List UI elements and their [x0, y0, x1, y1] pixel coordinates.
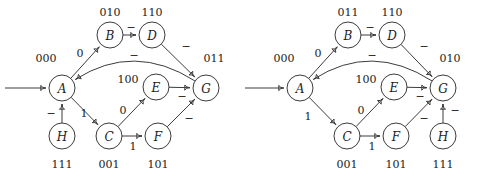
node-E-code: 100	[356, 73, 377, 86]
node-C[interactable]: C001	[96, 123, 122, 171]
node-C-code: 001	[337, 158, 358, 171]
figure-canvas: 0−−−101−−−A000B010D110E100G011C001F101H1…	[0, 0, 477, 179]
node-H-label: H	[56, 130, 68, 144]
node-G[interactable]: G010	[430, 52, 461, 101]
node-B-code: 010	[100, 6, 121, 19]
node-F[interactable]: F101	[145, 123, 171, 171]
node-E-code: 100	[118, 73, 139, 86]
left-state-diagram: 0−−−101−−−A000B010D110E100G011C001F101H1…	[5, 6, 225, 171]
edge-G-to-A-label: −	[367, 49, 376, 62]
node-H[interactable]: H111	[430, 123, 456, 171]
edge-G-to-A-label: −	[129, 49, 138, 62]
edge-G-to-A-head	[75, 74, 81, 79]
right-state-diagram: 0−−−101−−−A000B011D110E100G010C001F101H1…	[245, 6, 461, 171]
node-B-label: B	[343, 29, 353, 43]
node-G-code: 011	[204, 52, 225, 65]
node-A-label: A	[57, 82, 67, 96]
node-H[interactable]: H111	[49, 123, 75, 171]
edge-G-to-A-head	[313, 74, 319, 79]
node-A-code: 000	[36, 52, 57, 65]
node-D-label: D	[146, 29, 157, 43]
node-D-label: D	[386, 29, 397, 43]
node-C[interactable]: C001	[334, 123, 360, 171]
node-B[interactable]: B011	[335, 6, 361, 48]
edge-H-to-G-label: −	[450, 104, 459, 117]
edge-C-to-E-label: 0	[358, 104, 365, 117]
edge-A-to-C	[309, 97, 336, 124]
node-H-label: H	[437, 130, 449, 144]
node-B[interactable]: B010	[97, 6, 123, 48]
node-G-label: G	[438, 82, 448, 96]
node-G-label: G	[201, 82, 211, 96]
state-diagram-figure: 0−−−101−−−A000B010D110E100G011C001F101H1…	[0, 0, 477, 179]
edge-E-to-G-label: −	[177, 90, 186, 103]
edge-F-to-G-label: −	[184, 112, 193, 125]
node-D-code: 110	[382, 6, 403, 19]
node-A[interactable]: A000	[274, 52, 314, 101]
edge-D-to-G-label: −	[419, 40, 428, 53]
edge-B-to-D-label: −	[126, 21, 135, 34]
node-F-code: 101	[386, 158, 407, 171]
edge-A-to-B-label: 0	[315, 47, 322, 60]
node-E-label: E	[389, 81, 399, 95]
node-G-code: 010	[440, 52, 461, 65]
node-F-label: F	[391, 130, 401, 144]
node-C-label: C	[342, 130, 351, 144]
edge-A-to-C-label: 1	[305, 110, 312, 123]
node-F-label: F	[153, 130, 163, 144]
node-G[interactable]: G011	[193, 52, 225, 101]
node-D[interactable]: D110	[139, 6, 165, 48]
edge-C-to-F-label: 1	[369, 140, 376, 153]
edge-A-to-B-label: 0	[77, 47, 84, 60]
node-E[interactable]: E100	[118, 73, 170, 100]
edge-E-to-G-label: −	[415, 90, 424, 103]
edge-A-to-C-label: 1	[81, 107, 88, 120]
node-C-label: C	[104, 130, 113, 144]
node-H-code: 111	[52, 158, 73, 171]
edge-C-to-E-label: 0	[120, 104, 127, 117]
edge-D-to-G-label: −	[181, 40, 190, 53]
node-D-code: 110	[142, 6, 163, 19]
node-C-code: 001	[99, 158, 120, 171]
edge-H-to-A-label: −	[46, 107, 55, 120]
node-F-code: 101	[148, 158, 169, 171]
node-A-label: A	[295, 82, 305, 96]
edge-F-to-G-label: −	[419, 112, 428, 125]
edge-B-to-D-label: −	[365, 21, 374, 34]
node-E[interactable]: E100	[356, 73, 408, 100]
edge-C-to-F-label: 1	[130, 140, 137, 153]
node-D[interactable]: D110	[379, 6, 405, 48]
node-B-code: 011	[338, 6, 359, 19]
node-F[interactable]: F101	[383, 123, 409, 171]
node-A[interactable]: A000	[36, 52, 76, 101]
node-H-code: 111	[433, 158, 454, 171]
node-E-label: E	[151, 81, 161, 95]
node-B-label: B	[105, 29, 115, 43]
node-A-code: 000	[274, 52, 295, 65]
